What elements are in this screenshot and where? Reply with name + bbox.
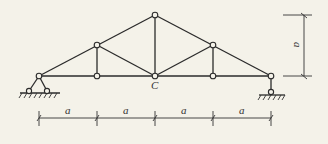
horizontal-dimension: a a a a [37, 104, 273, 126]
dimension-label-4: a [239, 104, 245, 116]
joint-a [36, 73, 42, 79]
diagonal-right [155, 45, 213, 76]
joint-c [152, 73, 158, 79]
truss-diagram: C a a a a a [0, 0, 328, 144]
support-hinge-right [268, 89, 273, 94]
truss-figure: C a a a a a [0, 0, 328, 144]
joint-top-right [210, 42, 216, 48]
joint-apex [152, 12, 158, 18]
dimension-label-1: a [65, 104, 71, 116]
joint-d [268, 73, 274, 79]
support-hinge-left-2 [44, 88, 49, 93]
joint-top-left [94, 42, 100, 48]
node-label-c: C [151, 79, 159, 91]
truss-members [39, 15, 271, 76]
joint-bottom-right [210, 73, 216, 79]
joint-bottom-left [94, 73, 100, 79]
diagonal-left [97, 45, 155, 76]
dimension-label-3: a [181, 104, 187, 116]
dimension-label-2: a [123, 104, 129, 116]
vertical-dimension: a [283, 13, 312, 79]
height-dimension-label: a [292, 42, 304, 48]
support-hinge-left-1 [26, 88, 31, 93]
roller-support-right [258, 76, 285, 100]
